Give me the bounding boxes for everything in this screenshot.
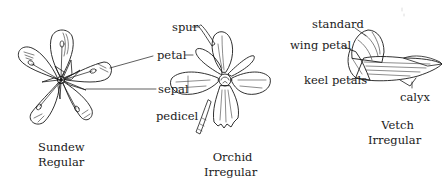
label-petal: petal bbox=[157, 49, 186, 62]
caption-vetch-symmetry: Irregular bbox=[368, 133, 421, 148]
scan-specks bbox=[402, 8, 404, 16]
leader-lines bbox=[86, 56, 156, 89]
caption-vetch-name: Vetch bbox=[368, 118, 421, 133]
label-wing-petal: wing petal bbox=[290, 39, 351, 52]
caption-orchid-symmetry: Irregular bbox=[204, 165, 257, 179]
caption-orchid: Orchid Irregular bbox=[204, 150, 257, 179]
sundew-flower-icon bbox=[18, 30, 111, 124]
label-pedicel: pedicel bbox=[156, 110, 198, 123]
caption-sundew-name: Sundew bbox=[38, 140, 85, 155]
label-keel-petals: keel petals bbox=[304, 74, 367, 87]
label-calyx: calyx bbox=[400, 91, 430, 104]
caption-vetch: Vetch Irregular bbox=[368, 118, 421, 148]
caption-orchid-name: Orchid bbox=[204, 150, 257, 165]
label-spur: spur bbox=[172, 21, 198, 34]
caption-sundew-symmetry: Regular bbox=[38, 155, 85, 170]
label-standard: standard bbox=[312, 18, 364, 31]
flower-symmetry-diagram: spur petal sepal pedicel standard wing p… bbox=[0, 0, 446, 179]
petal-leader-line bbox=[110, 56, 153, 68]
label-sepal: sepal bbox=[158, 83, 189, 96]
caption-sundew: Sundew Regular bbox=[38, 140, 85, 170]
